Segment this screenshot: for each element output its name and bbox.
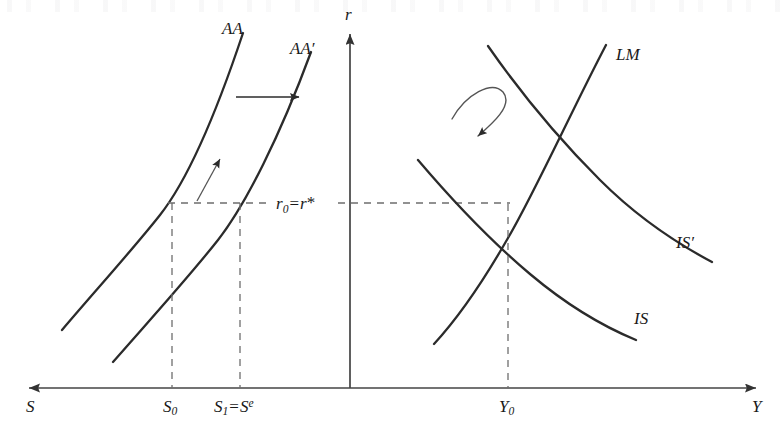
tick-label-S0-subscript: 0 <box>172 405 178 418</box>
prime-mark-is: ′ <box>690 233 694 252</box>
tick-label-S1-equals: = <box>228 397 240 416</box>
diagram-canvas <box>0 0 784 437</box>
curve-label-is-prime-text: IS <box>676 233 690 252</box>
equilibrium-rate-label: r0=r* <box>276 194 315 215</box>
economics-diagram: r S Y AA AA′ LM IS′ IS r0=r* S0 S1=Se Y0 <box>0 0 784 437</box>
curve-label-lm: LM <box>616 46 640 63</box>
left-dashed-group <box>172 203 240 388</box>
aa-curves-group <box>62 33 311 362</box>
axis-label-S: S <box>26 398 35 415</box>
tick-label-Y0-subscript: 0 <box>508 405 514 418</box>
curve-label-is: IS <box>634 310 648 327</box>
curve-label-aa-prime-text: AA <box>290 39 311 58</box>
tick-label-Y0: Y0 <box>499 398 514 418</box>
axis-label-Y: Y <box>752 398 761 415</box>
tick-label-S0: S0 <box>163 398 177 418</box>
is-shift-curved-arrow <box>452 88 506 136</box>
left-panel-arrows <box>197 97 299 201</box>
tick-label-S1: S1=Se <box>214 398 254 418</box>
diagonal-shift-arrow <box>197 159 220 201</box>
is-shift-arrow-path <box>452 88 506 136</box>
rate-label-r-star-base: r <box>300 194 307 213</box>
rate-label-r: r <box>276 194 283 213</box>
rate-label-equals: = <box>288 194 300 213</box>
tick-label-Se-superscript: e <box>248 397 253 410</box>
aa-curve <box>62 33 243 330</box>
curve-label-aa: AA <box>222 20 243 37</box>
prime-mark-aa: ′ <box>311 39 315 58</box>
curve-label-aa-prime: AA′ <box>290 40 315 57</box>
curve-label-aa-text: AA <box>222 19 243 38</box>
islm-curves-group <box>418 45 712 344</box>
tick-label-S1-base: S <box>214 397 223 416</box>
is-prime-curve <box>488 46 712 262</box>
axis-label-r: r <box>345 6 352 23</box>
rate-label-star: * <box>307 193 316 212</box>
tick-label-S0-base: S <box>163 397 172 416</box>
curve-label-is-prime: IS′ <box>676 234 694 251</box>
is-curve <box>418 160 636 340</box>
